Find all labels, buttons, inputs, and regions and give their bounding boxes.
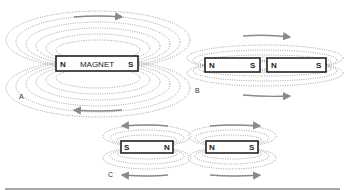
pole-label: N (209, 61, 215, 70)
panel-label-c: C (108, 171, 113, 178)
arrow-right-icon (210, 125, 260, 126)
arrow-right-icon (210, 175, 260, 176)
panel-label-a: A (19, 93, 24, 100)
magnet-label: MAGNET (80, 60, 114, 69)
magnet-c1: S N (121, 141, 173, 153)
pole-label: S (249, 143, 255, 152)
arrow-right-icon (243, 95, 290, 96)
arrow-left-icon (122, 175, 168, 176)
pole-label: S (124, 143, 130, 152)
pole-label: S (316, 61, 322, 70)
panel-b: N S N S B (187, 35, 343, 96)
magnet-c2: N S (206, 141, 258, 153)
magnet-b2: N S (267, 58, 326, 72)
panel-label-b: B (195, 87, 200, 94)
magnetic-field-diagram: N MAGNET S A N S N S B (0, 0, 350, 190)
pole-label: S (250, 61, 256, 70)
magnet-a: N MAGNET S (56, 56, 138, 71)
arrow-left-icon (74, 110, 122, 111)
pole-label: N (209, 143, 215, 152)
magnet-b1: N S (205, 58, 260, 72)
panel-a: N MAGNET S A (6, 11, 190, 117)
arrow-right-icon (243, 35, 290, 37)
pole-label: S (128, 60, 134, 69)
arrow-left-icon (122, 125, 168, 126)
panel-c: S N N S C (103, 125, 276, 178)
pole-label: N (164, 143, 170, 152)
arrow-right-icon (74, 16, 122, 17)
pole-label: N (271, 61, 277, 70)
pole-label: N (60, 60, 66, 69)
